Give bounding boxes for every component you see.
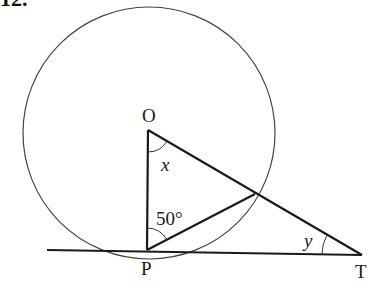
label-P: P	[141, 258, 152, 279]
line-OT	[148, 130, 362, 255]
angle-arc-x	[148, 141, 167, 152]
angle-arc-y	[322, 235, 327, 254]
label-O: O	[142, 105, 156, 126]
angle-label-y: y	[302, 230, 313, 251]
tangent-line-PT	[47, 250, 362, 255]
angle-arc-50	[147, 228, 167, 240]
angle-label-50: 50°	[156, 208, 183, 229]
diagram-canvas: 12. O P T x 50° y	[0, 0, 374, 304]
angle-label-x: x	[160, 154, 170, 175]
label-T: T	[355, 261, 367, 282]
geometry-diagram: O P T x 50° y	[0, 0, 374, 304]
radius-OP	[147, 130, 148, 250]
